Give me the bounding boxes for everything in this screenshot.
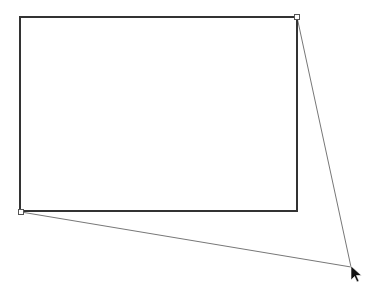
top-right-handle[interactable]	[295, 15, 300, 20]
bottom-left-handle[interactable]	[19, 210, 24, 215]
canvas-background	[0, 0, 374, 298]
drawing-canvas[interactable]	[0, 0, 374, 298]
